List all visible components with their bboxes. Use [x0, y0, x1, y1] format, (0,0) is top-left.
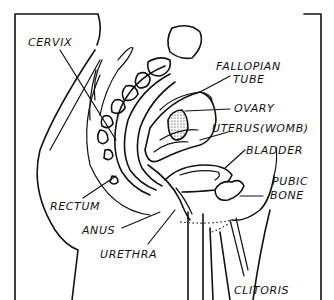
leader-anus	[122, 212, 160, 228]
leader-rectum	[83, 176, 116, 198]
label-fallopian-tube-2: TUBE	[233, 73, 265, 86]
coccyx-2	[104, 150, 113, 160]
frame-left	[15, 14, 100, 300]
body-outline	[37, 50, 95, 300]
ovary	[168, 110, 188, 140]
coccyx-1	[98, 130, 108, 144]
frame-right	[304, 14, 321, 300]
leader-cervix	[60, 50, 116, 140]
leader-clitoris-2	[236, 218, 248, 270]
label-bladder: BLADDER	[246, 144, 303, 157]
pubic-bone	[215, 181, 244, 201]
label-clitoris: CLITORIS	[234, 284, 289, 297]
pelvic-arc-outer	[87, 75, 150, 215]
sacrum-top	[168, 26, 201, 59]
label-pubic-bone-1: PUBIC	[272, 175, 308, 188]
label-pubic-bone-2: BONE	[270, 189, 304, 202]
label-anus: ANUS	[81, 224, 115, 237]
label-fallopian-tube-1: FALLOPIAN	[216, 60, 281, 73]
label-rectum: RECTUM	[50, 200, 100, 213]
leader-bladder	[225, 150, 245, 168]
label-ovary: OVARY	[234, 102, 275, 115]
leader-fallopian	[200, 76, 230, 92]
label-cervix: CERVIX	[28, 36, 72, 49]
leader-clitoris-1	[230, 220, 244, 276]
fallopian-tube	[160, 92, 212, 110]
bladder-inner	[180, 171, 219, 180]
dotted-outline-2	[212, 222, 232, 232]
leg-line-3	[210, 228, 213, 300]
anatomy-diagram: CERVIX FALLOPIAN TUBE OVARY UTERUS(WOMB)…	[0, 0, 334, 300]
label-urethra: URETHRA	[100, 248, 157, 261]
leg-line-4	[220, 232, 230, 300]
leader-ovary	[185, 109, 230, 111]
label-uterus: UTERUS(WOMB)	[212, 122, 309, 135]
